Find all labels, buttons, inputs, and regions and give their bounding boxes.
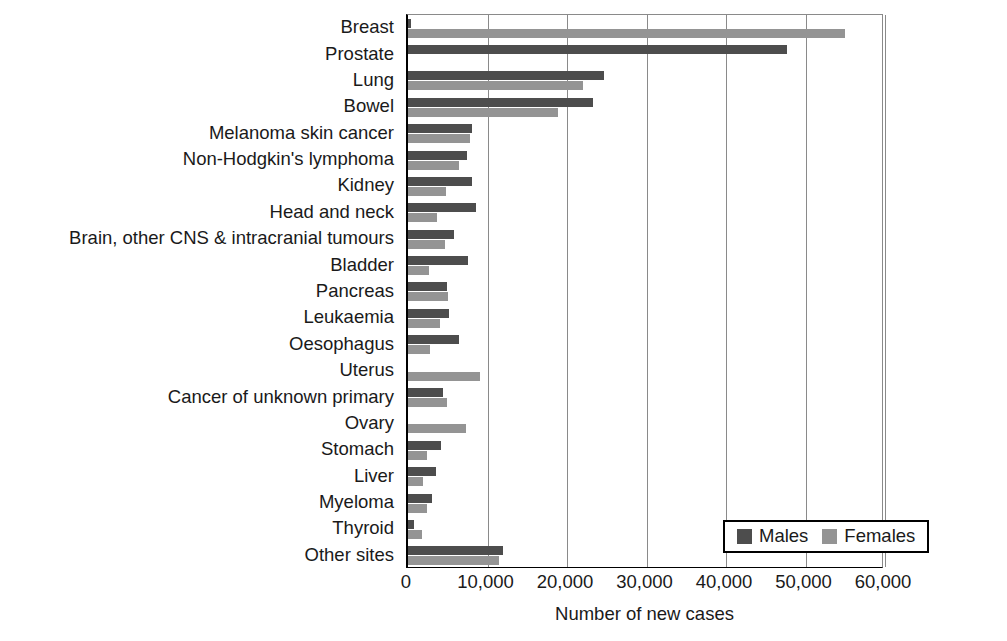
bar-row bbox=[408, 147, 882, 173]
category-label: Thyroid bbox=[332, 519, 394, 538]
bar-females bbox=[408, 477, 423, 486]
bar-females bbox=[408, 398, 447, 407]
bar-males bbox=[408, 388, 443, 397]
bar-row bbox=[408, 252, 882, 278]
bar-males bbox=[408, 98, 593, 107]
bar-females bbox=[408, 556, 499, 565]
bar-females bbox=[408, 424, 466, 433]
bar-females bbox=[408, 372, 480, 381]
bar-row bbox=[408, 15, 882, 41]
category-label: Head and neck bbox=[270, 203, 394, 222]
category-label: Leukaemia bbox=[303, 308, 394, 327]
bar-row bbox=[408, 411, 882, 437]
category-label: Liver bbox=[354, 467, 394, 486]
category-axis-labels: BreastProstateLungBowelMelanoma skin can… bbox=[0, 14, 400, 568]
bar-row bbox=[408, 490, 882, 516]
category-label: Uterus bbox=[340, 361, 395, 380]
bar-females bbox=[408, 108, 558, 117]
bar-males bbox=[408, 124, 472, 133]
category-label: Melanoma skin cancer bbox=[209, 124, 394, 143]
bar-males bbox=[408, 520, 414, 529]
x-tick-label: 40,000 bbox=[696, 573, 753, 592]
x-tick-label: 50,000 bbox=[775, 573, 832, 592]
category-label: Ovary bbox=[345, 414, 394, 433]
bar-males bbox=[408, 494, 432, 503]
bar-females bbox=[408, 451, 427, 460]
bar-females bbox=[408, 319, 440, 328]
bar-females bbox=[408, 81, 583, 90]
bar-females bbox=[408, 29, 845, 38]
category-label: Breast bbox=[341, 18, 394, 37]
gridline-60000 bbox=[885, 15, 886, 567]
bar-females bbox=[408, 240, 445, 249]
legend-item-males: Males bbox=[737, 527, 808, 546]
bar-row bbox=[408, 437, 882, 463]
bar-females bbox=[408, 134, 470, 143]
x-tick-label: 0 bbox=[401, 573, 411, 592]
category-label: Non-Hodgkin's lymphoma bbox=[183, 150, 394, 169]
category-label: Oesophagus bbox=[289, 335, 394, 354]
bar-row bbox=[408, 305, 882, 331]
bar-males bbox=[408, 441, 441, 450]
bar-males bbox=[408, 19, 411, 28]
legend-item-females: Females bbox=[822, 527, 915, 546]
bar-females bbox=[408, 345, 430, 354]
bar-females bbox=[408, 292, 448, 301]
bar-males bbox=[408, 45, 787, 54]
bar-males bbox=[408, 309, 449, 318]
bar-males bbox=[408, 467, 436, 476]
legend-swatch-females-icon bbox=[822, 529, 837, 544]
category-label: Bowel bbox=[344, 97, 394, 116]
category-label: Pancreas bbox=[316, 282, 394, 301]
bar-row bbox=[408, 358, 882, 384]
bar-females bbox=[408, 504, 427, 513]
bar-females bbox=[408, 213, 437, 222]
x-tick-label: 10,000 bbox=[457, 573, 514, 592]
bar-row bbox=[408, 173, 882, 199]
bar-row bbox=[408, 332, 882, 358]
bar-males bbox=[408, 71, 604, 80]
bar-males bbox=[408, 282, 447, 291]
category-label: Brain, other CNS & intracranial tumours bbox=[69, 229, 394, 248]
bar-females bbox=[408, 266, 429, 275]
legend-swatch-males-icon bbox=[737, 529, 752, 544]
category-label: Kidney bbox=[337, 176, 394, 195]
category-label: Other sites bbox=[305, 546, 394, 565]
x-tick-label: 30,000 bbox=[616, 573, 673, 592]
x-tick-label: 20,000 bbox=[537, 573, 594, 592]
bar-row bbox=[408, 463, 882, 489]
legend-label-males: Males bbox=[759, 527, 808, 546]
bar-row bbox=[408, 121, 882, 147]
bar-row bbox=[408, 279, 882, 305]
x-tick-label: 60,000 bbox=[855, 573, 912, 592]
bar-row bbox=[408, 226, 882, 252]
category-label: Prostate bbox=[325, 45, 394, 64]
category-label: Myeloma bbox=[319, 493, 394, 512]
bar-males bbox=[408, 546, 503, 555]
bar-row bbox=[408, 41, 882, 67]
category-label: Lung bbox=[353, 71, 394, 90]
bar-males bbox=[408, 230, 454, 239]
bar-males bbox=[408, 335, 459, 344]
chart-page: BreastProstateLungBowelMelanoma skin can… bbox=[0, 0, 1007, 641]
bar-row bbox=[408, 200, 882, 226]
bar-row bbox=[408, 384, 882, 410]
plot-area bbox=[406, 14, 883, 568]
bar-males bbox=[408, 203, 476, 212]
x-axis-title: Number of new cases bbox=[406, 603, 883, 625]
bar-row bbox=[408, 94, 882, 120]
bar-males bbox=[408, 177, 472, 186]
chart-legend: Males Females bbox=[723, 520, 929, 553]
bar-females bbox=[408, 161, 459, 170]
legend-label-females: Females bbox=[844, 527, 915, 546]
category-label: Bladder bbox=[330, 256, 394, 275]
bar-males bbox=[408, 151, 467, 160]
category-label: Cancer of unknown primary bbox=[168, 388, 394, 407]
bar-males bbox=[408, 256, 468, 265]
category-label: Stomach bbox=[321, 440, 394, 459]
bar-females bbox=[408, 530, 422, 539]
bar-females bbox=[408, 187, 446, 196]
bar-row bbox=[408, 68, 882, 94]
